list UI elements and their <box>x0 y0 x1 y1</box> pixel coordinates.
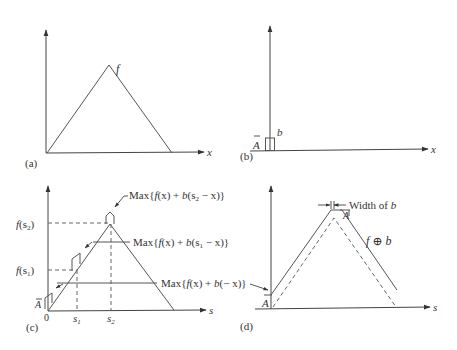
result-label: f ⊕ b <box>366 234 391 248</box>
panel-caption-a: (a) <box>25 157 38 170</box>
x-axis-label: x <box>206 146 212 158</box>
annotation-arrow-zero <box>56 284 63 288</box>
x-axis <box>46 152 204 153</box>
annotation-arrow-to-d <box>250 284 268 290</box>
function-f-label: f <box>116 62 121 76</box>
origin-label: 0 <box>44 312 49 323</box>
panel-caption-c: (c) <box>26 321 39 334</box>
annotation-max-s1: Max{f(x) + b(s1 − x)} <box>133 236 229 250</box>
height-label-A: A <box>252 139 260 151</box>
x-tick-s1: s1 <box>73 312 81 326</box>
panel-c: f(s2) f(s1) A 0 s1 s2 s Max{f(x) + b(s2 … <box>16 186 268 334</box>
y-tick-f-s2: f(s2) <box>16 218 35 232</box>
x-axis-label: s <box>433 301 437 313</box>
height-label-A: A <box>34 299 42 310</box>
annotation-arrow-s2 <box>115 196 124 207</box>
annotation-max-zero: Max{f(x) + b(− x)} <box>161 277 247 290</box>
width-of-b-label: Width of b <box>349 199 397 211</box>
panel-d: A Width of b A f ⊕ b s (d) <box>240 186 437 333</box>
annotation-arrow-s1 <box>85 242 92 248</box>
structuring-element-label: b <box>277 126 283 138</box>
x-tick-s2: s2 <box>107 312 115 326</box>
height-label-A: A <box>261 297 269 309</box>
y-tick-f-s1: f(s1) <box>16 264 35 278</box>
morphology-dilation-diagram: f x (a) b A x (b) f(s2) <box>0 0 457 350</box>
x-axis-label: s <box>209 304 213 316</box>
peak-height-label-A: A <box>342 210 350 221</box>
x-axis-label: x <box>430 143 436 155</box>
se-at-s2 <box>106 212 114 224</box>
panel-b: b A x (b) <box>240 26 436 163</box>
x-axis <box>255 307 430 309</box>
function-f-triangle <box>47 65 172 153</box>
x-axis <box>250 149 428 151</box>
panel-caption-b: (b) <box>240 150 253 163</box>
annotation-max-s2: Max{f(x) + b(s2 − x)} <box>129 189 225 203</box>
panel-caption-d: (d) <box>240 320 253 333</box>
panel-a: f x (a) <box>25 30 212 170</box>
x-axis <box>48 310 206 311</box>
